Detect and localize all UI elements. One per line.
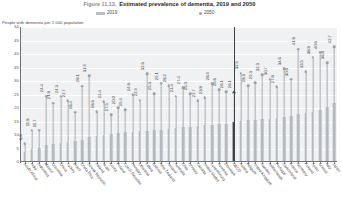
chart-bar-group[interactable]: 30.7Netherlands xyxy=(266,27,273,162)
chart-bar-group[interactable]: 29.3United Kingdom xyxy=(252,27,259,162)
chart-bar-group[interactable]: 25.3Estonia xyxy=(151,27,158,162)
chart-bar-group[interactable]: 11.7Indonesia xyxy=(35,27,42,162)
marker-2050-dot-icon[interactable] xyxy=(297,48,300,51)
chart-bar-2019[interactable] xyxy=(311,112,314,162)
chart-bar-2019[interactable] xyxy=(275,118,278,162)
chart-bar-group[interactable]: 21.8Colombia xyxy=(50,27,57,162)
chart-bar-2019[interactable] xyxy=(38,148,41,162)
chart-bar-group[interactable]: 28.3Belgium xyxy=(244,27,251,162)
marker-2050-dot-icon[interactable] xyxy=(247,84,250,87)
marker-2050-dot-icon[interactable] xyxy=(81,85,84,88)
chart-bar-group[interactable]: 20.0Poland xyxy=(115,27,122,162)
marker-2050-dot-icon[interactable] xyxy=(124,108,127,111)
chart-bar-2019[interactable] xyxy=(139,131,142,162)
marker-2050-dot-icon[interactable] xyxy=(333,45,336,48)
chart-bar-2019[interactable] xyxy=(326,107,329,162)
chart-bar-group[interactable]: 29.1New Zealand xyxy=(158,27,165,162)
marker-2050-dot-icon[interactable] xyxy=(304,70,307,73)
chart-bar-group[interactable]: 40.6Greece xyxy=(316,27,323,162)
chart-bar-2019[interactable] xyxy=(131,132,134,162)
marker-2050-dot-icon[interactable] xyxy=(95,110,98,113)
chart-bar-group[interactable]: 28.2Iceland xyxy=(165,27,172,162)
chart-bar-2019[interactable] xyxy=(74,141,77,162)
chart-bar-group[interactable]: 27.8Portugal xyxy=(273,27,280,162)
chart-bar-group[interactable]: 30.6France xyxy=(288,27,295,162)
chart-bar-2019[interactable] xyxy=(124,132,127,162)
chart-bar-2019[interactable] xyxy=(67,142,70,162)
marker-2050-dot-icon[interactable] xyxy=(31,129,34,132)
chart-bar-group[interactable]: 23.8United States xyxy=(201,27,208,162)
marker-2050-dot-icon[interactable] xyxy=(146,73,149,76)
marker-2050-dot-icon[interactable] xyxy=(196,99,199,102)
marker-2050-dot-icon[interactable] xyxy=(275,86,278,89)
chart-bar-group[interactable]: 6.8South Africa xyxy=(21,27,28,162)
marker-2050-dot-icon[interactable] xyxy=(117,107,120,110)
marker-2050-dot-icon[interactable] xyxy=(139,99,142,102)
marker-2050-dot-icon[interactable] xyxy=(23,142,26,145)
chart-bar-group[interactable]: 19.4Czech Republic xyxy=(122,27,129,162)
chart-bar-group[interactable]: 24.4Australia xyxy=(172,27,179,162)
chart-bar-2019[interactable] xyxy=(333,103,336,162)
marker-2050-dot-icon[interactable] xyxy=(290,78,293,81)
chart-bar-2019[interactable] xyxy=(88,137,91,162)
marker-2050-dot-icon[interactable] xyxy=(88,75,91,78)
chart-bar-2019[interactable] xyxy=(247,120,250,162)
chart-bar-2019[interactable] xyxy=(290,116,293,162)
chart-bar-group[interactable]: 11.8India xyxy=(28,27,35,162)
marker-2050-dot-icon[interactable] xyxy=(175,95,178,98)
marker-2050-dot-icon[interactable] xyxy=(254,82,257,85)
chart-bar-2019[interactable] xyxy=(254,120,257,162)
chart-bar-group[interactable]: 22.7Turkey xyxy=(64,27,71,162)
chart-bar-2019[interactable] xyxy=(52,144,55,162)
chart-bar-2019[interactable] xyxy=(167,129,170,162)
marker-2050-dot-icon[interactable] xyxy=(311,56,314,59)
marker-2050-dot-icon[interactable] xyxy=(218,88,221,91)
chart-bar-2019[interactable] xyxy=(95,136,98,162)
chart-bar-group[interactable]: 34.6Switzerland xyxy=(280,27,287,162)
chart-bar-2019[interactable] xyxy=(117,133,120,162)
chart-bar-group[interactable]: 32.9Austria xyxy=(237,27,244,162)
chart-bar-2019[interactable] xyxy=(110,134,113,162)
chart-bar-2019[interactable] xyxy=(261,119,264,162)
chart-bar-2019[interactable] xyxy=(175,128,178,162)
chart-bar-group[interactable]: 32.3Sweden xyxy=(259,27,266,162)
chart-bar-2019[interactable] xyxy=(203,125,206,162)
chart-bar-group[interactable]: 27.4Chile xyxy=(180,27,187,162)
chart-bar-2019[interactable] xyxy=(153,130,156,162)
marker-2050-dot-icon[interactable] xyxy=(110,113,113,116)
chart-bar-2019[interactable] xyxy=(81,140,84,162)
chart-bar-2019[interactable] xyxy=(304,113,307,162)
chart-bar-2019[interactable] xyxy=(319,110,322,162)
chart-bar-group[interactable]: 31.9Slovak Republic xyxy=(86,27,93,162)
chart-bar-group[interactable]: 28.1Costa Rica xyxy=(79,27,86,162)
marker-2050-dot-icon[interactable] xyxy=(52,102,55,105)
chart-bar-2019[interactable] xyxy=(225,124,228,162)
chart-bar-2019[interactable] xyxy=(160,130,163,162)
chart-bar-2019[interactable] xyxy=(283,117,286,162)
chart-bar-2019[interactable] xyxy=(239,121,242,162)
chart-bar-group[interactable]: 22.4Israel xyxy=(100,27,107,162)
marker-2050-dot-icon[interactable] xyxy=(160,82,163,85)
chart-bar-2019[interactable] xyxy=(103,135,106,162)
chart-bar-2019[interactable] xyxy=(182,127,185,162)
chart-bar-group[interactable]: 26.8Slovenia xyxy=(216,27,223,162)
chart-bar-2019[interactable] xyxy=(297,114,300,162)
marker-2050-dot-icon[interactable] xyxy=(203,96,206,99)
chart-bar-2019[interactable] xyxy=(196,126,199,162)
chart-bar-group[interactable]: 36.8Italy xyxy=(324,27,331,162)
chart-bar-2019[interactable] xyxy=(268,119,271,162)
marker-2050-dot-icon[interactable] xyxy=(225,90,228,93)
chart-bar-group[interactable]: 32.6Latvia xyxy=(143,27,150,162)
chart-bar-group[interactable]: 41.8Germany xyxy=(295,27,302,162)
marker-2050-dot-icon[interactable] xyxy=(326,61,329,64)
chart-bar-group[interactable]: 18.4Brazil xyxy=(71,27,78,162)
chart-bar-2019[interactable] xyxy=(146,131,149,162)
chart-bar-2019[interactable] xyxy=(218,124,221,162)
chart-bar-group[interactable]: 26.1Denmark xyxy=(223,27,230,162)
chart-bar-2019[interactable] xyxy=(31,149,34,163)
chart-bar-2019[interactable] xyxy=(45,145,48,162)
chart-bar-group[interactable]: 22.7Canada xyxy=(194,27,201,162)
chart-bar-2019[interactable] xyxy=(211,125,214,162)
marker-2050-dot-icon[interactable] xyxy=(38,129,41,132)
chart-bar-group[interactable]: 17.5Korea xyxy=(107,27,114,162)
